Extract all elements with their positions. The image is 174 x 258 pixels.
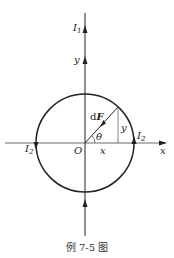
y-axis-label: y — [73, 54, 80, 65]
current-left-label: I2 — [24, 143, 34, 156]
current-top-label: I1 — [72, 22, 81, 35]
force-label: dF — [90, 111, 104, 122]
figure-caption: 例 7-5 图 — [66, 241, 108, 253]
current-right-label: I2 — [136, 130, 146, 143]
current-arrow-bottom-icon — [83, 199, 88, 207]
loop-arrow-right-icon — [132, 136, 137, 144]
y-component-label: y — [120, 122, 127, 133]
loop-arrow-left-icon — [34, 142, 39, 150]
angle-arc — [92, 136, 95, 143]
x-axis-label: x — [160, 145, 166, 156]
origin-label: O — [74, 145, 82, 156]
angle-label: θ — [96, 131, 102, 142]
diagram-canvas: I1 y dF θ y x O x I2 I2 例 7-5 图 — [0, 0, 174, 258]
y-axis-arrow-icon — [83, 56, 88, 64]
current-arrow-top-icon — [83, 25, 88, 33]
x-component-label: x — [100, 145, 106, 156]
